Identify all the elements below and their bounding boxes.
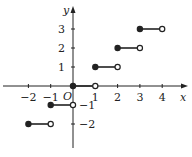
y-tick-label: 2 [58,42,65,55]
step-segment [48,102,75,107]
y-axis-arrow-icon [71,6,76,13]
x-tick-label: 3 [136,91,143,104]
open-dot [93,83,98,88]
open-dot [48,121,53,126]
open-dot [70,102,75,107]
closed-dot [70,83,75,88]
tick-labels: −2−11234−2−1123 [20,23,165,131]
y-tick-label: −2 [79,118,95,131]
tick-marks [28,29,162,124]
step-function-chart: −2−11234−2−1123 x y O [0,0,192,157]
step-segment [93,64,120,69]
y-tick-label: 1 [58,61,65,74]
closed-dot [48,102,53,107]
x-tick-label: 2 [114,91,121,104]
closed-dot [115,45,120,50]
x-axis-arrow-icon [181,84,188,89]
step-segment [70,83,98,88]
closed-dot [137,26,142,31]
step-segment [137,26,165,31]
x-tick-label: 4 [159,91,166,104]
x-tick-label: −2 [20,91,36,104]
y-tick-label: 3 [58,23,65,36]
closed-dot [93,64,98,69]
x-axis-label: x [180,91,187,104]
step-segment [115,45,142,50]
y-tick-label: −1 [79,99,95,112]
y-axis-label: y [62,4,70,17]
origin-label: O [63,90,72,103]
open-dot [137,45,142,50]
closed-dot [26,121,31,126]
open-dot [160,26,165,31]
step-segments [26,26,165,126]
open-dot [115,64,120,69]
step-segment [26,121,54,126]
